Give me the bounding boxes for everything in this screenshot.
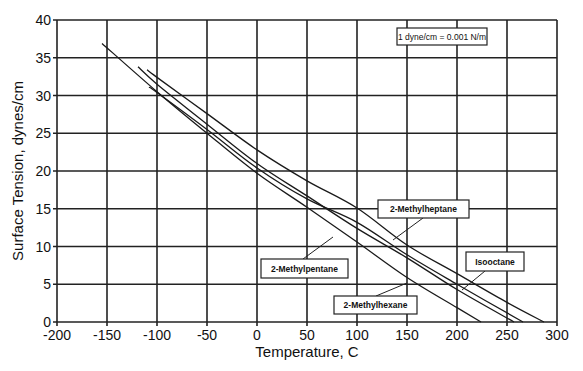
x-tick-label: 300 [545, 327, 569, 343]
y-tick-label: 20 [35, 163, 51, 179]
x-tick-label: 0 [253, 327, 261, 343]
y-tick-label: 40 [35, 12, 51, 28]
label-text: 2-Methylhexane [344, 300, 408, 310]
y-tick-label: 5 [43, 276, 51, 292]
surface-tension-chart: -200-150-100-50050100150200250300 051015… [0, 0, 583, 371]
x-tick-label: 200 [445, 327, 469, 343]
series-label-2-methylpentane: 2-Methylpentane [261, 237, 348, 278]
y-tick-label: 0 [43, 314, 51, 330]
unit-note-text: 1 dyne/cm = 0.001 N/m [398, 32, 486, 42]
y-tick-label: 25 [35, 125, 51, 141]
x-tick-label: 150 [395, 327, 419, 343]
x-tick-label: -150 [93, 327, 121, 343]
x-axis-ticks: -200-150-100-50050100150200250300 [43, 327, 569, 343]
x-tick-label: -50 [197, 327, 217, 343]
x-tick-label: 100 [345, 327, 369, 343]
x-axis-title: Temperature, C [255, 343, 359, 360]
y-tick-label: 35 [35, 50, 51, 66]
x-tick-label: -100 [143, 327, 171, 343]
y-tick-label: 15 [35, 201, 51, 217]
x-tick-label: 50 [299, 327, 315, 343]
y-tick-label: 10 [35, 239, 51, 255]
label-text: 2-Methylpentane [271, 264, 338, 274]
y-axis-title: Surface Tension, dynes/cm [9, 81, 26, 261]
data-curves [102, 43, 544, 322]
unit-note: 1 dyne/cm = 0.001 N/m [397, 28, 487, 45]
gridlines [53, 20, 557, 326]
x-tick-label: 250 [495, 327, 519, 343]
series-label-2-methylhexane: 2-Methylhexane [334, 283, 417, 314]
label-text: 2-Methylheptane [390, 204, 457, 214]
y-tick-label: 30 [35, 88, 51, 104]
label-text: Isooctane [475, 257, 515, 267]
series-labels: 2-Methylpentane2-MethylhexaneIsooctane2-… [261, 200, 524, 314]
leader-line [393, 218, 423, 240]
y-axis-ticks: 0510152025303540 [35, 12, 51, 330]
